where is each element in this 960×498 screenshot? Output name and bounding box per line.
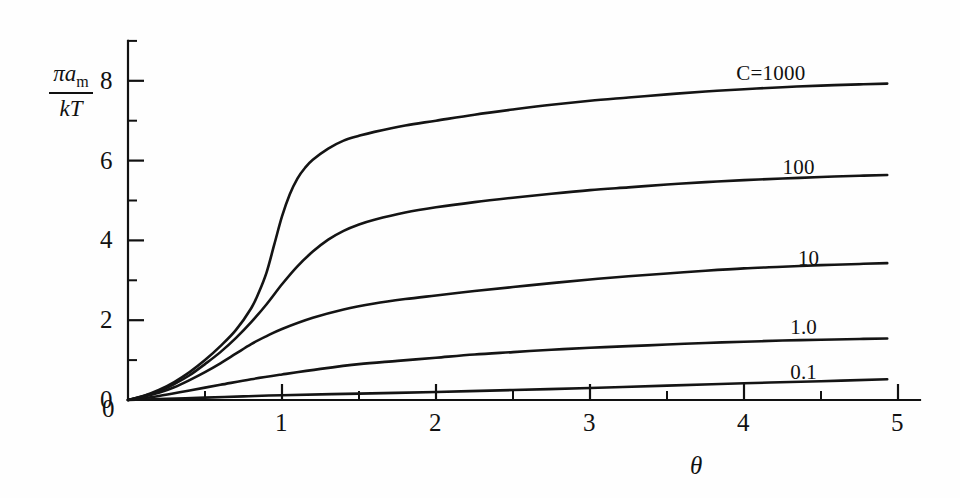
figure-container: πam kT θ 02468012345 C=1000100101.00.1 bbox=[0, 0, 960, 498]
x-axis-label: θ bbox=[690, 452, 702, 480]
y-tick-label: 4 bbox=[100, 227, 113, 252]
x-tick-label: 5 bbox=[891, 410, 904, 435]
y-tick-label: 8 bbox=[100, 68, 113, 93]
series-label: 10 bbox=[798, 248, 819, 269]
y-axis-label-numerator: πam bbox=[49, 62, 92, 94]
y-axis-label-subscript: m bbox=[76, 73, 88, 90]
x-tick-label: 0 bbox=[102, 396, 115, 421]
x-tick-label: 4 bbox=[737, 410, 750, 435]
x-tick-label: 1 bbox=[275, 410, 288, 435]
y-tick-label: 2 bbox=[100, 307, 113, 332]
x-tick-label: 3 bbox=[583, 410, 596, 435]
series-label: 100 bbox=[783, 157, 815, 178]
curve-4 bbox=[128, 379, 887, 400]
series-label: 0.1 bbox=[790, 362, 817, 383]
series-label: 1.0 bbox=[790, 317, 817, 338]
curves-group bbox=[128, 84, 887, 400]
y-axis-label-denominator: kT bbox=[60, 94, 83, 121]
y-tick-label: 6 bbox=[100, 148, 113, 173]
series-label: C=1000 bbox=[736, 63, 805, 84]
x-tick-label: 2 bbox=[429, 410, 442, 435]
